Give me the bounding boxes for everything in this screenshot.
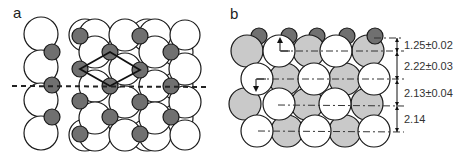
panel-b: b — [229, 5, 453, 147]
spacing-label-3: 2.13±0.04 — [404, 87, 453, 99]
top-dark-atom-right — [367, 28, 383, 44]
dimension-line — [395, 38, 399, 132]
panel-a-label: a — [13, 4, 22, 21]
panel-a: a — [12, 4, 208, 151]
panel-b-label: b — [230, 5, 238, 22]
spacing-label-2: 2.22±0.03 — [404, 60, 453, 72]
spacing-label-4: 2.14 — [404, 113, 425, 125]
spacing-label-1: 1.25±0.02 — [404, 39, 453, 51]
figure: a — [0, 0, 464, 162]
